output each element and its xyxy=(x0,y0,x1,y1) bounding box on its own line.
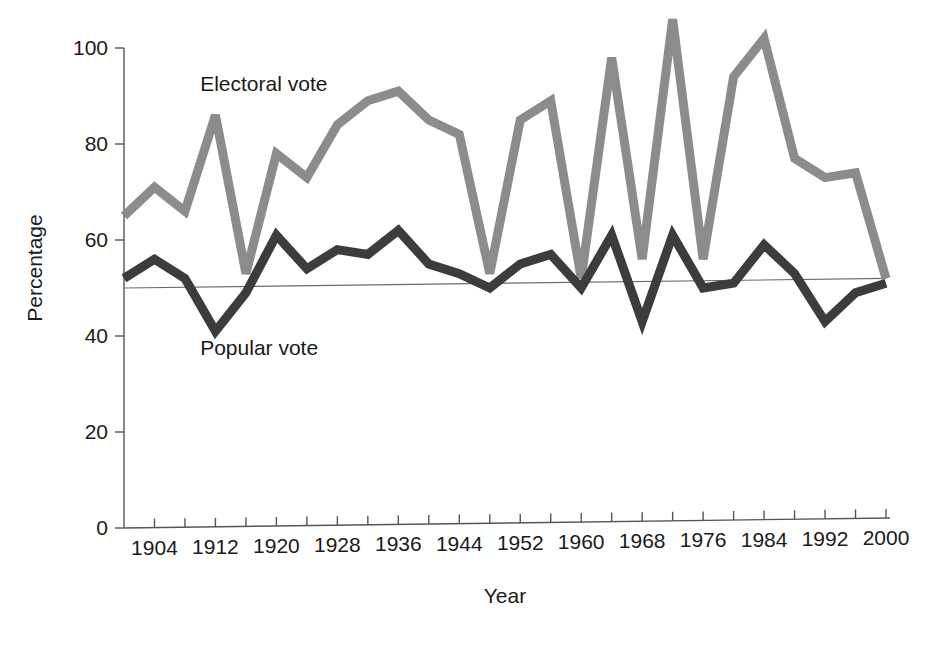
y-tick-label: 60 xyxy=(85,228,108,251)
y-axis-title: Percentage xyxy=(23,214,46,321)
x-tick-label: 1992 xyxy=(802,527,849,550)
y-tick-label: 80 xyxy=(85,132,108,155)
x-tick-label: 1968 xyxy=(619,529,666,552)
y-tick-label: 100 xyxy=(73,36,108,59)
chart-container: 020406080100 190419121920192819361944195… xyxy=(0,0,947,653)
y-tick-label: 40 xyxy=(85,324,108,347)
x-tick-label: 1944 xyxy=(436,532,483,555)
electoral-vote-line xyxy=(124,19,886,278)
y-tick-label: 20 xyxy=(85,420,108,443)
vote-percentage-line-chart: 020406080100 190419121920192819361944195… xyxy=(0,0,947,653)
popular-vote-annotation: Popular vote xyxy=(200,336,318,359)
x-tick-label: 1920 xyxy=(253,534,300,557)
x-tick-label: 1952 xyxy=(497,531,544,554)
x-tick-label: 1984 xyxy=(741,528,788,551)
x-tick-label: 1976 xyxy=(680,528,727,551)
x-tick-label: 1928 xyxy=(314,533,361,556)
y-tick-label: 0 xyxy=(96,516,108,539)
x-tick-label: 1936 xyxy=(375,532,422,555)
x-tick-label: 1912 xyxy=(192,535,239,558)
x-tick-label: 2000 xyxy=(863,526,910,549)
x-axis-title: Year xyxy=(484,584,526,607)
electoral-vote-annotation: Electoral vote xyxy=(200,72,327,95)
x-tick-label: 1960 xyxy=(558,530,605,553)
x-axis-tick-labels: 1904191219201928193619441952196019681976… xyxy=(131,526,909,559)
y-axis-tick-labels: 020406080100 xyxy=(73,36,108,539)
axis-tick-marks xyxy=(115,48,886,528)
x-axis-line xyxy=(124,518,890,528)
x-tick-label: 1904 xyxy=(131,536,178,559)
